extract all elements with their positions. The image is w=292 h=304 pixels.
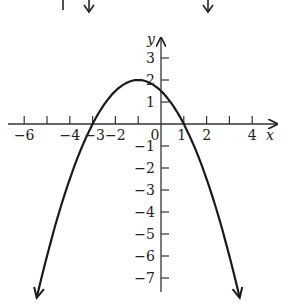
tick-label: x: [266, 127, 274, 143]
tick-label: −2: [134, 160, 155, 176]
previous-figure-remnants: [63, 0, 213, 12]
parabola-graph: −6−4−3−20124321−1−2−3−4−5−6−7xy: [0, 0, 292, 304]
tick-label: −3: [134, 182, 155, 198]
tick-label: −5: [134, 226, 155, 242]
tick-label: −1: [134, 138, 155, 154]
tick-label: −6: [14, 127, 35, 143]
tick-label: −3: [84, 127, 105, 143]
tick-label: −2: [105, 127, 126, 143]
tick-label: −4: [134, 204, 155, 220]
tick-label: y: [146, 31, 156, 47]
tick-label: 3: [146, 50, 155, 66]
tick-label: 1: [146, 94, 155, 110]
tick-label: −6: [134, 248, 155, 264]
tick-label: 4: [248, 127, 257, 143]
tick-label: −4: [59, 127, 80, 143]
axis-labels: −6−4−3−20124321−1−2−3−4−5−6−7xy: [14, 31, 274, 286]
tick-label: 2: [202, 127, 211, 143]
tick-label: −7: [134, 270, 155, 286]
tick-label: 1: [177, 127, 186, 143]
tick-label: 2: [146, 72, 155, 88]
